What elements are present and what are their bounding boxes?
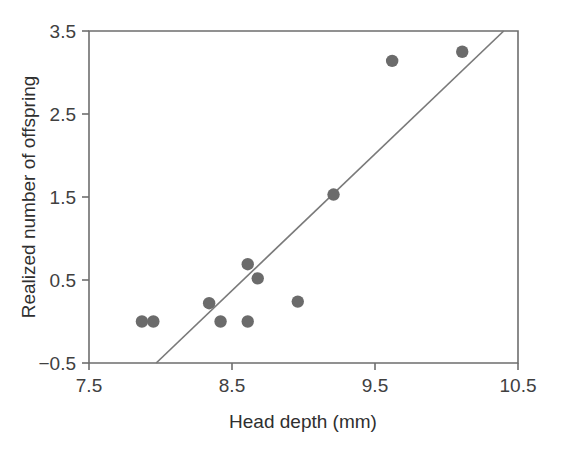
data-point — [203, 297, 215, 309]
y-tick-marks — [82, 31, 89, 363]
plot-frame — [89, 31, 518, 363]
data-point — [136, 315, 148, 327]
x-tick-marks — [89, 363, 518, 370]
data-point — [292, 295, 304, 307]
y-tick-label-0.5: 0.5 — [50, 270, 76, 291]
x-tick-label-7.5: 7.5 — [76, 375, 102, 396]
x-tick-label-9.5: 9.5 — [362, 375, 388, 396]
y-tick-label-2.5: 2.5 — [50, 104, 76, 125]
data-point — [242, 315, 254, 327]
y-axis-title: Realized number of offspring — [18, 76, 39, 319]
y-tick-label--0.5: −0.5 — [38, 353, 76, 374]
x-axis-title: Head depth (mm) — [229, 411, 377, 432]
data-point — [242, 258, 254, 270]
y-tick-label-1.5: 1.5 — [50, 187, 76, 208]
x-tick-label-8.5: 8.5 — [219, 375, 245, 396]
y-tick-label-3.5: 3.5 — [50, 21, 76, 42]
chart-canvas: 3.5 2.5 1.5 0.5 −0.5 7.5 8.5 9.5 10.5 He… — [0, 0, 565, 454]
scatter-plot-figure: 3.5 2.5 1.5 0.5 −0.5 7.5 8.5 9.5 10.5 He… — [0, 0, 565, 454]
data-point — [252, 272, 264, 284]
x-tick-label-10.5: 10.5 — [500, 375, 537, 396]
data-point — [386, 55, 398, 67]
data-points-group — [136, 46, 469, 328]
data-point — [456, 46, 468, 58]
data-point — [214, 315, 226, 327]
data-point — [327, 188, 339, 200]
data-point — [147, 315, 159, 327]
